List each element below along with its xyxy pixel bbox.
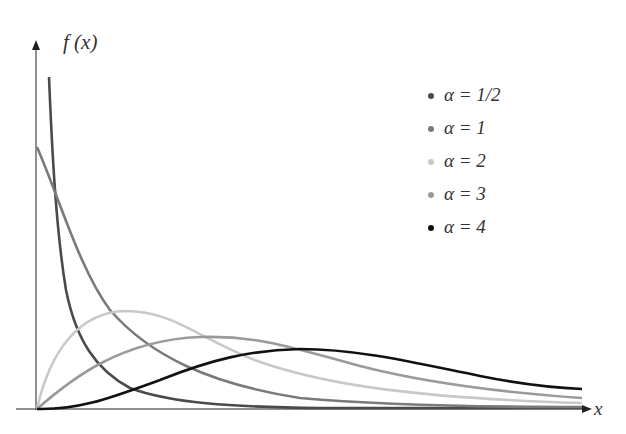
legend-marker-icon — [428, 192, 434, 198]
legend-marker-icon — [428, 225, 434, 231]
legend-item: α = 2 — [428, 144, 501, 177]
y-axis-arrow-icon — [32, 40, 40, 50]
legend-label: α = 1 — [444, 117, 486, 139]
legend-label: α = 4 — [444, 216, 486, 238]
legend-marker-icon — [428, 159, 434, 165]
legend-item: α = 4 — [428, 210, 501, 243]
legend-item: α = 1/2 — [428, 78, 501, 111]
y-axis-label: f (x) — [63, 30, 97, 55]
legend-item: α = 1 — [428, 111, 501, 144]
x-axis-label: x — [594, 398, 602, 420]
curve-alpha-half — [49, 77, 582, 408]
x-axis-arrow-icon — [582, 405, 592, 413]
legend-item: α = 3 — [428, 177, 501, 210]
chart-plot-area — [0, 0, 626, 434]
legend-marker-icon — [428, 93, 434, 99]
legend-label: α = 3 — [444, 183, 486, 205]
legend-marker-icon — [428, 126, 434, 132]
legend: α = 1/2 α = 1 α = 2 α = 3 α = 4 — [428, 78, 501, 243]
legend-label: α = 1/2 — [444, 84, 501, 106]
legend-label: α = 2 — [444, 150, 486, 172]
